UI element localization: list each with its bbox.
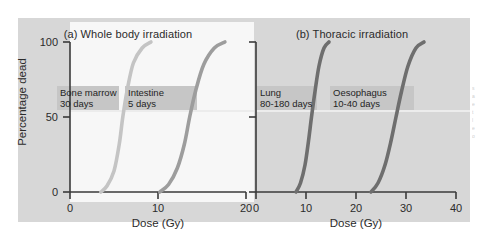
- cropped-margin-text: s a e t l e o: [472, 84, 488, 196]
- margin-line-4: l: [472, 116, 488, 124]
- curve-bone-marrow: [101, 42, 151, 192]
- panel-a-svg: 100 50 0 0 10 20 Dose (Gy): [0, 0, 256, 240]
- panel-b-xticklabel-20: 20: [350, 202, 362, 214]
- curve-oesophagus: [371, 42, 424, 192]
- caption-lung: Lung 80-180 days: [260, 87, 312, 109]
- panel-b-svg: 0 10 20 30 40 Dose (Gy): [240, 0, 488, 240]
- margin-line-0: s: [472, 84, 488, 92]
- panel-a-x-axis-label: Dose (Gy): [132, 217, 185, 229]
- margin-line-5: e: [472, 124, 488, 132]
- caption-oesophagus: Oesophagus 10-40 days: [333, 87, 387, 109]
- panel-a-curves: [101, 42, 225, 192]
- margin-line-6: o: [472, 132, 488, 140]
- margin-line-1: a: [472, 92, 488, 100]
- margin-line-3: t: [472, 108, 488, 116]
- panel-b-curves: [296, 42, 424, 192]
- panel-a-yticklabel-100: 100: [40, 36, 58, 48]
- panel-b-x-axis-label: Dose (Gy): [330, 217, 383, 229]
- panel-b-xticklabel-30: 30: [400, 202, 412, 214]
- panel-b-xticklabel-40: 40: [450, 202, 462, 214]
- panel-b-xticklabel-0: 0: [253, 202, 259, 214]
- curve-intestine: [160, 42, 225, 192]
- panel-b-xticklabel-10: 10: [300, 202, 312, 214]
- panel-b: (b) Thoracic irradiation 0 10 20 30 40 D…: [240, 0, 488, 240]
- figure-container: (a) Whole body irradiation Percentage de…: [0, 0, 488, 240]
- caption-bone-marrow: Bone marrow 30 days: [60, 87, 117, 109]
- panel-a-yticklabel-50: 50: [46, 111, 58, 123]
- caption-intestine: Intestine 5 days: [128, 87, 164, 109]
- panel-a-yticklabel-0: 0: [52, 186, 58, 198]
- margin-line-2: e: [472, 100, 488, 108]
- panel-a-xticklabel-0: 0: [67, 202, 73, 214]
- panel-a-xticklabel-10: 10: [152, 202, 164, 214]
- panel-a: (a) Whole body irradiation Percentage de…: [0, 0, 256, 240]
- curve-lung: [296, 42, 329, 192]
